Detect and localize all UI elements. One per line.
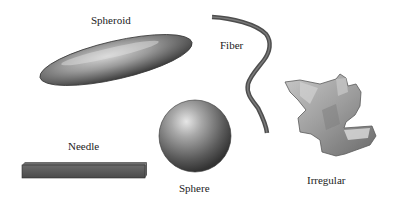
- irregular-shape: [285, 74, 376, 156]
- fiber-label: Fiber: [220, 39, 243, 51]
- particle-shapes-diagram: Spheroid Fiber Needle Sphere Irregular: [0, 0, 403, 207]
- irregular-label: Irregular: [307, 174, 345, 186]
- needle-label: Needle: [68, 140, 99, 152]
- spheroid-label: Spheroid: [91, 14, 131, 26]
- spheroid-shape: [36, 24, 197, 96]
- needle-shape: [22, 162, 147, 178]
- sphere-label: Sphere: [179, 182, 210, 194]
- sphere-shape: [159, 100, 231, 172]
